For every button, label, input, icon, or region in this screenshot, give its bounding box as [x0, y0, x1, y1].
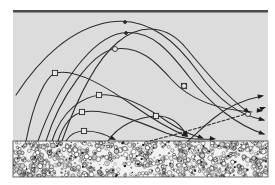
- trajectory-apex-marker: [96, 92, 101, 97]
- trajectory-apex-marker: [81, 128, 86, 133]
- trajectory-apex-marker: [79, 109, 84, 114]
- granular-bed-region: [12, 139, 270, 179]
- trajectory-apex-marker: [125, 32, 128, 35]
- trajectory-diagram-svg: [0, 0, 275, 185]
- trajectory-apex-marker: [52, 70, 57, 75]
- trajectory-apex-marker: [113, 47, 118, 52]
- figure-root: [0, 0, 275, 185]
- trajectory-apex-marker: [182, 84, 187, 89]
- trajectory-apex-marker: [124, 21, 127, 24]
- trajectory-apex-marker: [153, 113, 158, 118]
